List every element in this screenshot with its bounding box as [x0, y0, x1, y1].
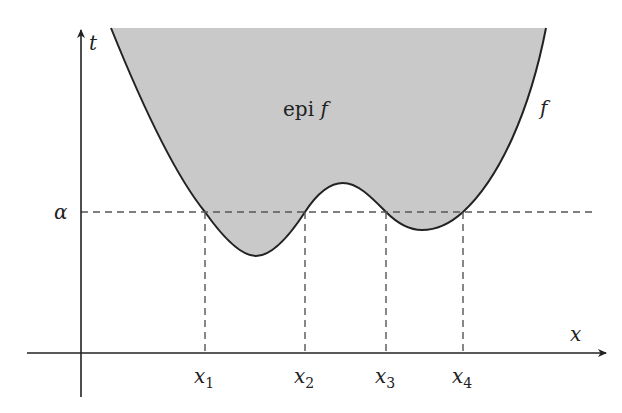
epigraph-label: epi f: [283, 97, 331, 121]
epigraph-figure: t x f epi f α x1 x2 x3 x4: [0, 0, 622, 413]
x4-label: x4: [452, 364, 472, 391]
x1-label: x1: [194, 364, 214, 391]
x3-label: x3: [375, 364, 395, 391]
x-axis-label: x: [570, 322, 581, 346]
y-axis-label: t: [89, 31, 98, 55]
epigraph-region: [111, 28, 546, 256]
x2-label: x2: [294, 364, 314, 391]
alpha-label: α: [54, 200, 68, 224]
function-label: f: [538, 96, 551, 120]
